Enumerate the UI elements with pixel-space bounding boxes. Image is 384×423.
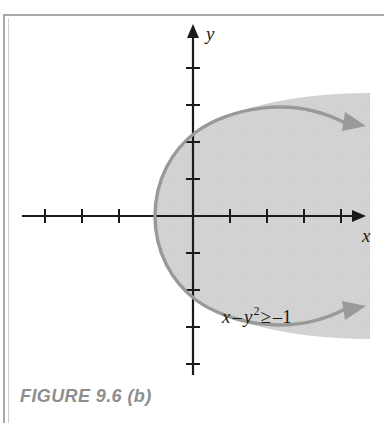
inequality-annotation: x–y2≥–1 — [222, 306, 292, 326]
y-axis-arrowhead — [187, 24, 199, 38]
figure-caption: FIGURE 9.6 (b) — [20, 387, 152, 405]
equation-exponent: 2 — [253, 304, 259, 318]
equation-minus-sign: – — [230, 306, 244, 327]
equation-relation-sign: ≥ — [258, 306, 272, 327]
equation-rhs: –1 — [273, 306, 292, 327]
coordinate-plot — [0, 0, 384, 423]
y-axis-label: y — [206, 24, 214, 43]
x-axis-label: x — [362, 226, 370, 245]
figure-container: y x x–y2≥–1 FIGURE 9.6 (b) — [0, 0, 384, 423]
equation-sq-var: y — [244, 306, 252, 327]
